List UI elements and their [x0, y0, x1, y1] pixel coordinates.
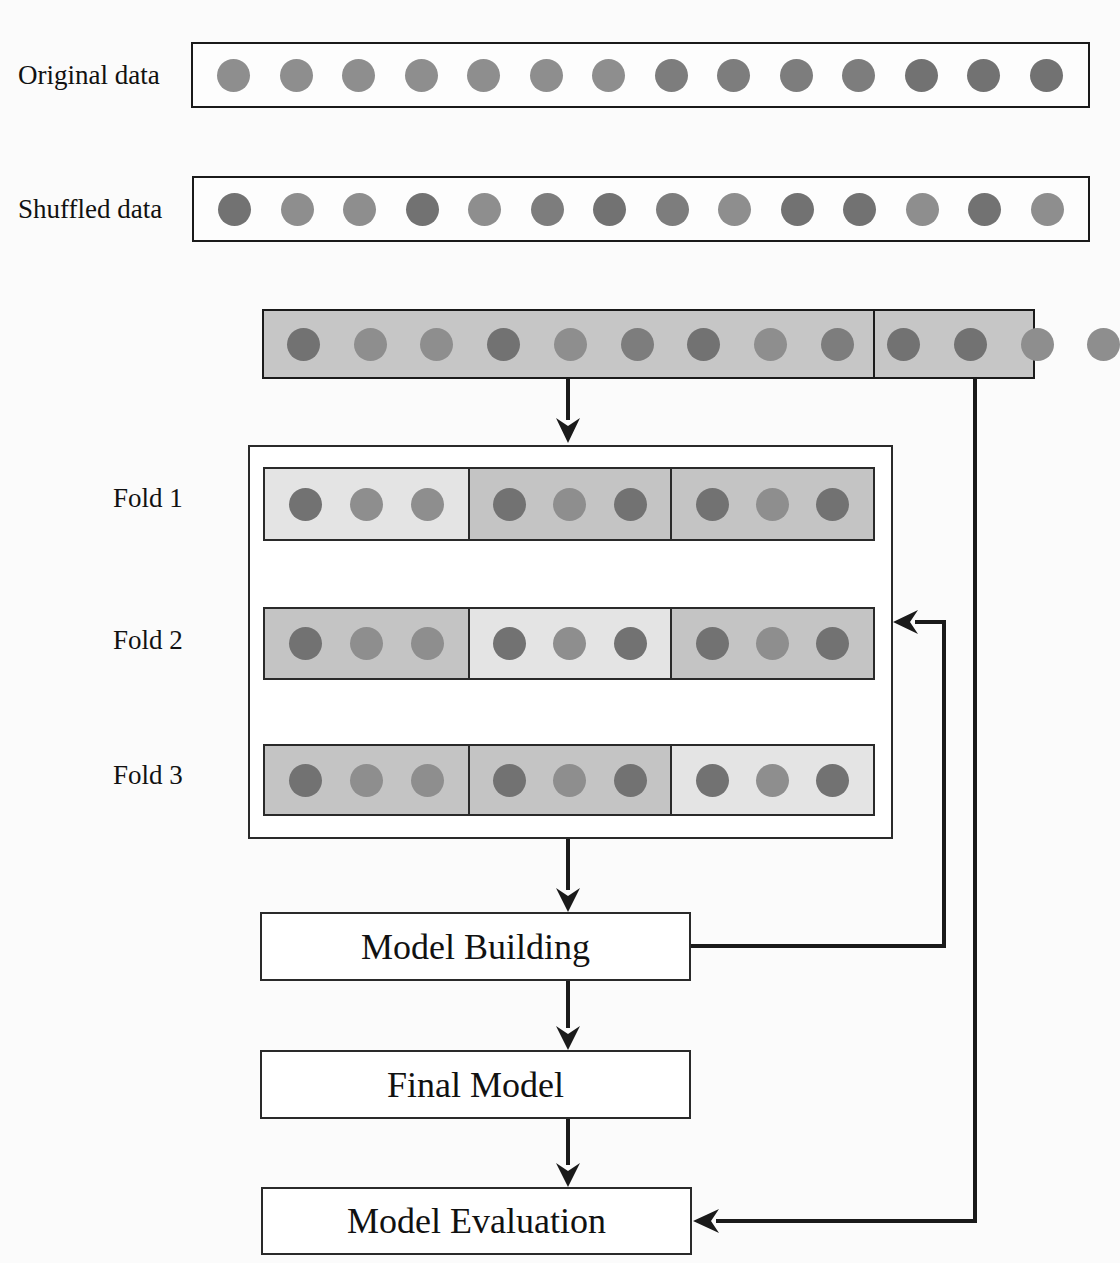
data-point: [614, 488, 647, 521]
shuffled-data-label: Shuffled data: [18, 196, 162, 223]
data-point: [754, 328, 787, 361]
data-point: [1087, 328, 1120, 361]
data-point: [954, 328, 987, 361]
training-segment: [468, 469, 671, 539]
data-point: [687, 328, 720, 361]
data-point: [821, 328, 854, 361]
data-point: [493, 764, 526, 797]
data-point: [718, 193, 751, 226]
fold-2-row: [263, 607, 875, 680]
fold-1-row: [263, 467, 875, 541]
data-point: [621, 328, 654, 361]
data-point: [593, 193, 626, 226]
data-point: [717, 59, 750, 92]
data-point: [842, 59, 875, 92]
model-building-label: Model Building: [361, 926, 590, 968]
data-point: [696, 764, 729, 797]
final-model-box: Final Model: [260, 1050, 691, 1119]
data-point: [968, 193, 1001, 226]
data-point: [531, 193, 564, 226]
data-point: [218, 193, 251, 226]
data-point: [411, 764, 444, 797]
data-point: [756, 764, 789, 797]
data-point: [614, 627, 647, 660]
data-point: [843, 193, 876, 226]
shuffled-data-box: [192, 176, 1090, 242]
data-point: [354, 328, 387, 361]
fold-1-label: Fold 1: [113, 485, 183, 512]
data-point: [1021, 328, 1054, 361]
fold-3-row: [263, 744, 875, 816]
training-segment: [468, 746, 671, 814]
final-model-label: Final Model: [387, 1064, 564, 1106]
training-segment: [265, 746, 468, 814]
data-point: [756, 488, 789, 521]
data-point: [756, 627, 789, 660]
data-point: [553, 627, 586, 660]
original-data-box: [191, 42, 1090, 108]
model-evaluation-label: Model Evaluation: [347, 1200, 606, 1242]
data-point: [217, 59, 250, 92]
original-data-dots: [193, 44, 1088, 106]
data-point: [343, 193, 376, 226]
data-point: [342, 59, 375, 92]
data-point: [592, 59, 625, 92]
data-point: [905, 59, 938, 92]
model-building-box: Model Building: [260, 912, 691, 981]
test-segment: [670, 746, 873, 814]
data-point: [655, 59, 688, 92]
data-point: [350, 764, 383, 797]
test-segment: [468, 609, 671, 678]
data-point: [406, 193, 439, 226]
fold-2-label: Fold 2: [113, 627, 183, 654]
data-point: [467, 59, 500, 92]
data-point: [1030, 59, 1063, 92]
data-point: [411, 627, 444, 660]
data-point: [530, 59, 563, 92]
data-point: [887, 328, 920, 361]
fold-3-label: Fold 3: [113, 762, 183, 789]
data-point: [656, 193, 689, 226]
data-point: [281, 193, 314, 226]
original-data-label: Original data: [18, 62, 160, 89]
data-point: [781, 193, 814, 226]
data-point: [289, 764, 322, 797]
test-segment: [265, 469, 468, 539]
data-point: [554, 328, 587, 361]
data-point: [280, 59, 313, 92]
data-point: [553, 488, 586, 521]
data-point: [553, 764, 586, 797]
data-point: [350, 627, 383, 660]
data-point: [780, 59, 813, 92]
data-point: [816, 764, 849, 797]
data-point: [696, 627, 729, 660]
data-point: [1031, 193, 1064, 226]
data-point: [289, 627, 322, 660]
shuffled-data-dots: [194, 178, 1088, 240]
data-point: [411, 488, 444, 521]
partitioned-data-box: [262, 309, 1035, 379]
data-point: [816, 488, 849, 521]
data-point: [405, 59, 438, 92]
training-segment: [670, 469, 873, 539]
training-segment: [670, 609, 873, 678]
data-point: [614, 764, 647, 797]
data-point: [350, 488, 383, 521]
data-point: [468, 193, 501, 226]
data-point: [289, 488, 322, 521]
data-point: [696, 488, 729, 521]
partitioned-data-dots: [264, 311, 1033, 377]
data-point: [816, 627, 849, 660]
training-segment: [265, 609, 468, 678]
data-point: [287, 328, 320, 361]
data-point: [493, 627, 526, 660]
data-point: [493, 488, 526, 521]
data-point: [967, 59, 1000, 92]
data-point: [906, 193, 939, 226]
data-point: [420, 328, 453, 361]
data-point: [487, 328, 520, 361]
model-evaluation-box: Model Evaluation: [261, 1187, 692, 1255]
